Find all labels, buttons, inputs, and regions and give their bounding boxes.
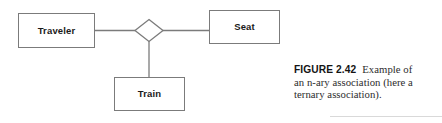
footer-rule [330, 116, 442, 117]
caption-line-1: FIGURE 2.42Example of [294, 63, 440, 76]
figure-label: FIGURE 2.42 [294, 64, 356, 75]
class-box-train[interactable]: Train [114, 77, 185, 111]
class-name-traveler: Traveler [38, 26, 76, 36]
figure-2-42: Traveler Seat Train FIGURE 2.42Example o… [0, 0, 442, 123]
nary-association-diamond-icon [135, 20, 163, 42]
uml-diagram: Traveler Seat Train [0, 0, 290, 123]
caption-line-2: an n-ary association (here a [294, 76, 440, 88]
class-box-traveler[interactable]: Traveler [18, 13, 95, 48]
class-box-seat[interactable]: Seat [209, 10, 280, 44]
caption-line-3: ternary association). [294, 88, 440, 100]
class-name-train: Train [138, 89, 161, 99]
class-name-seat: Seat [234, 22, 255, 32]
caption-text-1: Example of [362, 63, 412, 75]
figure-caption: FIGURE 2.42Example of an n-ary associati… [294, 63, 440, 101]
